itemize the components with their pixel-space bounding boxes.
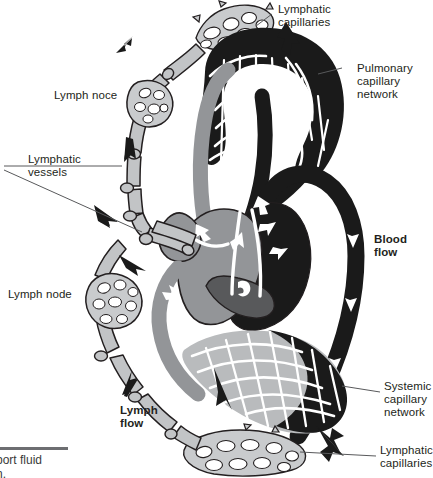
lymph-node-upper	[127, 80, 173, 127]
label-lymphatic-vessels: Lymphatic vessels	[28, 153, 81, 179]
label-pulmonary-capillary-network: Pulmonary capillary network	[357, 62, 413, 102]
caption-line-1: port fluid	[0, 453, 42, 467]
label-lymph-noce: Lymph noce	[54, 89, 117, 102]
label-systemic-capillary-network: Systemic capillary network	[384, 380, 431, 420]
label-lymphatic-capillaries-bottom: Lymphatic capillaries	[380, 444, 433, 470]
label-lymph-node: Lymph node	[8, 288, 72, 301]
caption-line-2: n.	[0, 467, 6, 478]
lymph-node-lower	[86, 274, 142, 329]
label-lymphatic-capillaries-top: Lymphatic capillaries	[278, 3, 331, 29]
label-blood-flow: Blood flow	[374, 233, 407, 259]
label-lymph-flow: Lymph flow	[120, 404, 158, 430]
caption-rule	[0, 447, 68, 450]
